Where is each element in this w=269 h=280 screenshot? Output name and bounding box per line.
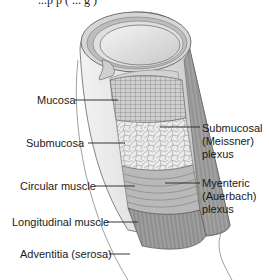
label-myenteric-plexus: Myenteric (Auerbach) plexus bbox=[202, 177, 256, 216]
label-submucosal-plexus-line-2: (Meissner) bbox=[202, 135, 263, 148]
label-submucosal-plexus-line-1: Submucosal bbox=[202, 122, 263, 135]
submucosa-layer bbox=[116, 118, 193, 170]
serosa-outline-right bbox=[219, 230, 232, 280]
longitudinal-muscle-layer bbox=[128, 208, 206, 249]
label-mucosa: Mucosa bbox=[37, 94, 76, 107]
label-circular-muscle: Circular muscle bbox=[20, 180, 96, 193]
label-myenteric-plexus-line-1: Myenteric bbox=[202, 177, 256, 190]
label-submucosa: Submucosa bbox=[26, 137, 84, 150]
label-myenteric-plexus-line-3: plexus bbox=[202, 203, 256, 216]
label-adventitia: Adventitia (serosa) bbox=[20, 248, 112, 261]
mucosa-layer bbox=[110, 76, 186, 123]
lumen bbox=[100, 25, 180, 65]
caption-fragment: ...p p ( ... g ) bbox=[38, 0, 97, 8]
label-myenteric-plexus-line-2: (Auerbach) bbox=[202, 190, 256, 203]
label-longitudinal-muscle: Longitudinal muscle bbox=[12, 216, 109, 229]
label-submucosal-plexus-line-3: plexus bbox=[202, 148, 263, 161]
label-submucosal-plexus: Submucosal (Meissner) plexus bbox=[202, 122, 263, 161]
